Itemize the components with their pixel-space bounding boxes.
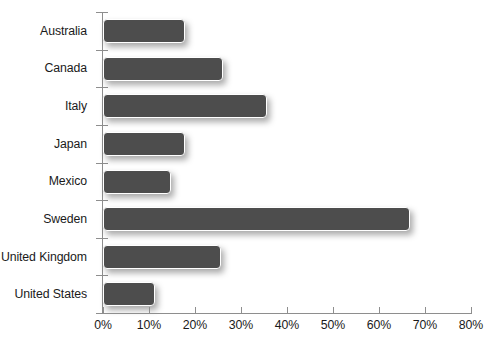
bar-mexico — [103, 170, 171, 194]
x-axis-tick-label: 70% — [413, 318, 437, 332]
x-axis-tick — [195, 307, 196, 314]
x-axis-tick-label: 80% — [459, 318, 483, 332]
category-label: United Kingdom — [0, 238, 96, 276]
x-axis-tick — [287, 307, 288, 314]
x-axis-tick — [379, 307, 380, 314]
x-axis-tick — [241, 307, 242, 314]
bar-italy — [103, 94, 267, 118]
x-axis-tick-label: 0% — [94, 318, 112, 332]
category-label: Mexico — [0, 163, 96, 201]
category-label: Australia — [0, 12, 96, 50]
x-axis-tick — [149, 307, 150, 314]
x-axis-tick-label: 20% — [183, 318, 207, 332]
bar-row — [103, 87, 471, 125]
bar-australia — [103, 19, 185, 43]
bar-row — [103, 200, 471, 238]
x-axis-tick — [103, 307, 104, 314]
category-axis-labels: Australia Canada Italy Japan Mexico Swed… — [0, 12, 96, 313]
bar-united-states — [103, 282, 155, 306]
bar-canada — [103, 57, 223, 81]
category-label: Sweden — [0, 200, 96, 238]
bar-row — [103, 163, 471, 201]
x-axis-tick-label: 30% — [229, 318, 253, 332]
x-axis-tick-label: 10% — [137, 318, 161, 332]
bar-row — [103, 12, 471, 50]
bar-chart: Australia Canada Italy Japan Mexico Swed… — [0, 0, 492, 342]
bar-row — [103, 238, 471, 276]
category-label: Italy — [0, 87, 96, 125]
bar-japan — [103, 132, 185, 156]
x-axis-tick-label: 40% — [275, 318, 299, 332]
plot-area — [103, 12, 471, 313]
category-label: Canada — [0, 50, 96, 88]
bar-row — [103, 125, 471, 163]
x-axis-tick — [333, 307, 334, 314]
category-label: United States — [0, 275, 96, 313]
bar-united-kingdom — [103, 245, 221, 269]
x-axis-tick — [425, 307, 426, 314]
category-label: Japan — [0, 125, 96, 163]
bar-row — [103, 50, 471, 88]
x-axis-tick-label: 50% — [321, 318, 345, 332]
x-axis-tick — [471, 307, 472, 314]
x-axis-tick-label: 60% — [367, 318, 391, 332]
bar-sweden — [103, 207, 410, 231]
